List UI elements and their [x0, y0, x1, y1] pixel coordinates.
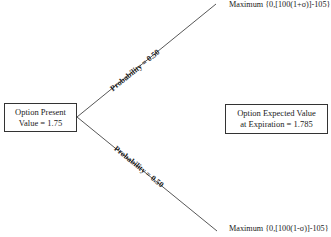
option-expected-value-box: Option Expected Value at Expiration = 1.…	[225, 104, 328, 134]
expected-line1: Option Expected Value	[226, 108, 327, 119]
up-outcome-label: Maximum {0,[100(1+σ)]-105}	[229, 0, 330, 9]
present-line1: Option Present	[5, 107, 76, 118]
expected-line2: at Expiration = 1.785	[226, 119, 327, 130]
present-line2: Value = 1.75	[5, 118, 76, 129]
option-present-value-box: Option Present Value = 1.75	[4, 103, 77, 132]
down-outcome-label: Maximum {0,[100(1-σ)]-105}	[229, 224, 329, 233]
